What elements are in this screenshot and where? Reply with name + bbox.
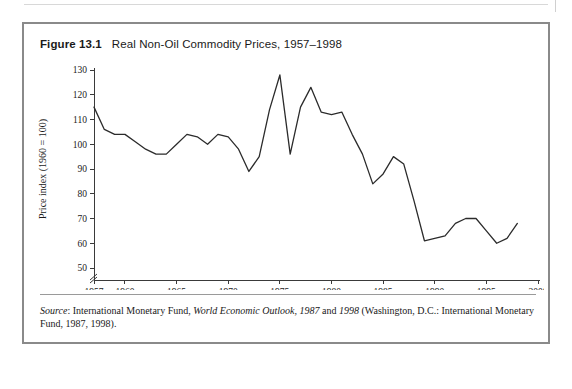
page-top-rule xyxy=(24,4,548,5)
figure-caption: Figure 13.1Real Non-Oil Commodity Prices… xyxy=(40,38,342,50)
x-tick-label: 1960 xyxy=(115,287,134,290)
y-tick-label: 70 xyxy=(78,214,88,224)
x-tick-label: 1957 xyxy=(85,287,104,290)
y-tick-label: 120 xyxy=(73,90,88,100)
y-axis-title: Price index (1960 = 100) xyxy=(37,119,49,219)
line-chart: 5060708090100110120130 19571960196519701… xyxy=(32,58,544,290)
x-tick-label: 1985 xyxy=(374,287,393,290)
x-tick-label: 1995 xyxy=(477,287,496,290)
y-tick-label: 130 xyxy=(73,65,88,75)
y-tick-label: 60 xyxy=(78,239,88,249)
y-tick-label: 50 xyxy=(78,263,88,273)
figure-container: Figure 13.1Real Non-Oil Commodity Prices… xyxy=(22,22,550,344)
x-tick-label: 1965 xyxy=(167,287,186,290)
chart-area: 5060708090100110120130 19571960196519701… xyxy=(32,58,544,290)
x-tick-label: 1990 xyxy=(425,287,444,290)
source-divider xyxy=(40,294,536,295)
figure-title: Real Non-Oil Commodity Prices, 1957–1998 xyxy=(112,38,342,50)
y-axis-ticks: 5060708090100110120130 xyxy=(73,65,94,273)
x-tick-label: 1970 xyxy=(219,287,238,290)
source-text-1: : International Monetary Fund, xyxy=(67,305,193,316)
data-series-line xyxy=(94,75,517,243)
y-tick-label: 80 xyxy=(78,189,88,199)
page-canvas: Figure 13.1Real Non-Oil Commodity Prices… xyxy=(0,0,572,389)
x-tick-label: 1975 xyxy=(270,287,289,290)
y-tick-label: 110 xyxy=(73,115,87,125)
y-tick-label: 90 xyxy=(78,164,88,174)
x-tick-label: 1980 xyxy=(322,287,341,290)
page-top-tick xyxy=(555,0,556,12)
y-tick-label: 100 xyxy=(73,140,88,150)
x-tick-label: 2000 xyxy=(529,287,545,290)
source-italic-2: 1998 xyxy=(339,305,359,316)
source-italic-1: World Economic Outlook, 1987 xyxy=(193,305,319,316)
x-axis-ticks: 1957196019651970197519801985199019952000 xyxy=(85,280,545,290)
source-label: Source xyxy=(40,305,67,316)
figure-number: Figure 13.1 xyxy=(40,38,102,50)
source-text-2: and xyxy=(320,305,339,316)
source-note: Source: International Monetary Fund, Wor… xyxy=(40,304,536,330)
